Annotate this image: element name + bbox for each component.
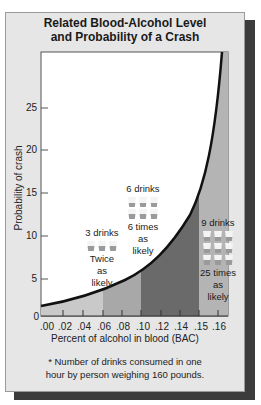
- glass-icon: [139, 197, 147, 207]
- x-tick-15: .15: [194, 321, 208, 332]
- ann-text-line: 6 times: [121, 221, 165, 233]
- x-tick-16: .16: [212, 321, 226, 332]
- glass-icon: [203, 243, 211, 253]
- footnote-line-1: * Number of drinks consumed in one: [0, 355, 250, 368]
- glass-icon: [139, 209, 147, 219]
- ann-text-line: likely: [82, 277, 122, 289]
- annotation-3-drinks: 3 drinks Twice as likely: [82, 227, 122, 289]
- ann-text-line: likely: [121, 245, 165, 257]
- x-tick-04: .04: [77, 321, 91, 332]
- ann-text-line: as: [121, 233, 165, 245]
- glass-icon: [214, 243, 222, 253]
- footnote: * Number of drinks consumed in one hour …: [0, 355, 250, 381]
- ann-text-line: as: [198, 279, 238, 291]
- ann-text-line: 25 times: [198, 267, 238, 279]
- x-tick-00: .00: [40, 321, 54, 332]
- x-tick-12: .12: [155, 321, 169, 332]
- glass-icons: [198, 231, 238, 265]
- x-tick-02: .02: [58, 321, 72, 332]
- ann-text-line: Twice: [82, 253, 122, 265]
- drinks-label: 3 drinks: [82, 227, 122, 239]
- glass-icon: [150, 197, 158, 207]
- glass-icons: [121, 197, 165, 219]
- glass-icon: [225, 255, 233, 265]
- x-tick-10: .10: [136, 321, 150, 332]
- glass-icon: [214, 231, 222, 241]
- glass-icon: [87, 241, 95, 251]
- y-axis-label: Probability of crash: [13, 145, 24, 230]
- glass-icons: [82, 241, 122, 251]
- ann-text-line: as: [82, 265, 122, 277]
- x-tick-08: .08: [116, 321, 130, 332]
- y-tick-5: 5: [17, 273, 37, 284]
- drinks-label: 6 drinks: [121, 183, 165, 195]
- footnote-line-2: hour by person weighing 160 pounds.: [0, 368, 250, 381]
- glass-icon: [98, 241, 106, 251]
- glass-icon: [214, 255, 222, 265]
- glass-icon: [109, 241, 117, 251]
- x-tick-14: .14: [174, 321, 188, 332]
- y-tick-25: 25: [17, 102, 37, 113]
- glass-icon: [150, 209, 158, 219]
- y-tick-0: 0: [17, 311, 39, 322]
- glass-icon: [128, 209, 136, 219]
- drinks-label: 9 drinks: [198, 217, 238, 229]
- ann-text-line: likely: [198, 291, 238, 303]
- glass-icon: [203, 231, 211, 241]
- annotation-6-drinks: 6 drinks 6 times as likely: [121, 183, 165, 257]
- glass-icon: [225, 243, 233, 253]
- glass-icon: [203, 255, 211, 265]
- glass-icon: [128, 197, 136, 207]
- annotation-9-drinks: 9 drinks 25 times as likely: [198, 217, 238, 303]
- y-tick-10: 10: [17, 230, 37, 241]
- x-axis-label: Percent of alcohol in blood (BAC): [0, 333, 250, 344]
- glass-icon: [225, 231, 233, 241]
- x-tick-06: .06: [97, 321, 111, 332]
